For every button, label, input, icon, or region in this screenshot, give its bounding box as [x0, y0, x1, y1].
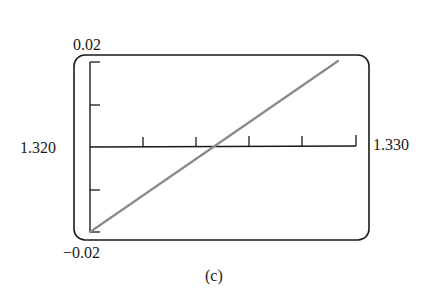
- y-max-label: 0.02: [73, 37, 101, 53]
- x-axis: [90, 146, 356, 147]
- figure-caption: (c): [205, 268, 223, 284]
- calculator-graph-figure: 0.02 −0.02 1.320 1.330 (c): [0, 0, 431, 297]
- x-min-label: 1.320: [20, 140, 56, 156]
- x-axis-ticks: [143, 135, 356, 147]
- y-min-label: −0.02: [63, 245, 100, 261]
- x-max-label: 1.330: [373, 137, 409, 153]
